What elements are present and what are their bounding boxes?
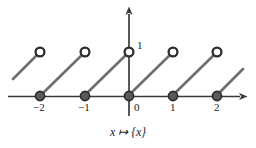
x-tick-label-neg1: −1 — [78, 102, 90, 113]
graph-segment-clipped-right — [217, 69, 243, 95]
open-point-neg2 — [36, 48, 45, 57]
caption-text: x ↦ {x} — [110, 125, 146, 139]
figure-caption: x ↦ {x} — [0, 126, 256, 138]
open-point-2 — [213, 48, 222, 57]
x-tick-label-2: 2 — [214, 102, 220, 113]
graph-segment-1-to-2 — [173, 53, 216, 95]
open-point-0 — [125, 48, 134, 57]
filled-point-2 — [212, 91, 221, 100]
open-point-1 — [169, 48, 178, 57]
open-endpoints — [36, 48, 222, 57]
x-tick-label-1: 1 — [170, 102, 176, 113]
filled-point-neg2 — [35, 91, 44, 100]
graph-segment-neg1-to-0 — [85, 53, 128, 95]
filled-point-1 — [168, 91, 177, 100]
graph-segment-0-to-1 — [129, 53, 172, 95]
y-tick-label-1: 1 — [137, 40, 143, 51]
x-tick-label-neg2: −2 — [33, 102, 45, 113]
graph-segments — [13, 53, 243, 95]
graph-segment-neg2-to-neg1 — [41, 53, 84, 95]
filled-point-0 — [124, 91, 133, 100]
graph-segment-clipped-left — [13, 53, 39, 79]
filled-point-neg1 — [80, 91, 89, 100]
fractional-part-figure: −2 −1 0 1 2 1 x ↦ {x} — [0, 0, 256, 148]
open-point-neg1 — [81, 48, 90, 57]
x-tick-label-0: 0 — [134, 102, 140, 113]
